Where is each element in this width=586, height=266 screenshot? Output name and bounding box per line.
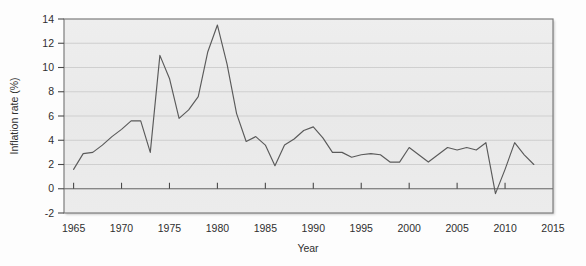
y-tick-label-14: 14 [42,13,54,25]
y-tick-label-0: 0 [48,182,54,194]
x-tick-label-2015: 2015 [541,222,565,234]
y-tick-label-2: 2 [48,158,54,170]
chart-canvas: -202468101214 19651970197519801985199019… [0,0,586,266]
y-tick-label-8: 8 [48,85,54,97]
x-tick-label-1985: 1985 [254,222,278,234]
y-axis-title: Inflation rate (%) [8,77,20,154]
x-tick-label-1995: 1995 [350,222,374,234]
x-tick-label-2005: 2005 [445,222,469,234]
x-tick-label-1965: 1965 [62,222,86,234]
y-tick-label-10: 10 [42,61,54,73]
y-tick-label-4: 4 [48,134,54,146]
x-tick-label-2000: 2000 [397,222,421,234]
x-tick-label-1975: 1975 [158,222,182,234]
y-tick-label--2: -2 [45,207,54,219]
x-tick-label-1980: 1980 [206,222,230,234]
x-axis-title: Year [297,242,319,254]
x-tick-label-1970: 1970 [110,222,134,234]
inflation-rate-chart-figure: -202468101214 19651970197519801985199019… [0,0,586,266]
y-tick-label-6: 6 [48,110,54,122]
y-axis-ticks: -202468101214 [42,13,64,219]
x-tick-label-1990: 1990 [302,222,326,234]
y-tick-label-12: 12 [42,37,54,49]
x-tick-label-2010: 2010 [493,222,517,234]
